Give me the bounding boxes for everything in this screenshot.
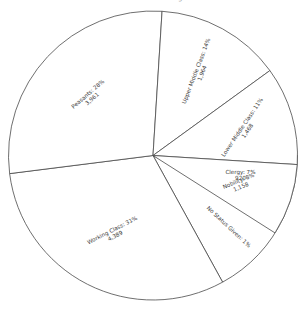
chart-title-clipped: Social Status of Emigrants <box>0 0 306 2</box>
pie-chart-figure: Social Status of Emigrants Clergy: 7%920… <box>0 0 306 317</box>
pie-wedge-group <box>9 11 298 300</box>
pie-chart-canvas: Clergy: 7%920No Status Given: 1%Working … <box>0 0 306 317</box>
